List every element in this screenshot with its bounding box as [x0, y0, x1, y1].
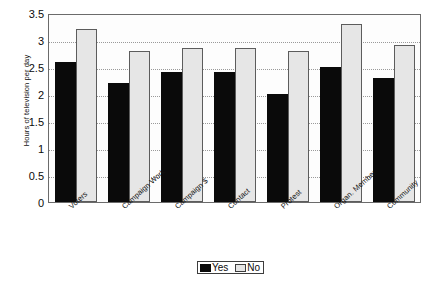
- chart-legend: YesNo: [197, 261, 264, 274]
- bar-no: [288, 51, 309, 202]
- y-tick-label: 2: [14, 90, 44, 101]
- bar-chart: Hours of television per day 3.532.521.51…: [0, 0, 431, 289]
- bar-no: [341, 24, 362, 202]
- bar-yes: [108, 83, 129, 202]
- y-tick-label: 2.5: [14, 63, 44, 74]
- legend-label: Yes: [212, 263, 228, 273]
- bar-group: [267, 15, 309, 202]
- legend-entry: No: [235, 263, 260, 273]
- bar-yes: [373, 78, 394, 202]
- y-tick-label: 1.5: [14, 117, 44, 128]
- bar-no: [235, 48, 256, 202]
- solid-black-swatch: [200, 264, 211, 272]
- legend-label: No: [247, 263, 260, 273]
- y-tick-label: 0: [14, 198, 44, 209]
- legend-entry: Yes: [200, 263, 228, 273]
- y-tick-label: 0.5: [14, 171, 44, 182]
- dotted-pattern-swatch: [235, 264, 246, 272]
- x-axis-category-labels: VotersCampaign WorkCampaign $ContactProt…: [48, 204, 421, 260]
- bar-group: [108, 15, 150, 202]
- y-axis-tick-labels: 3.532.521.510.50: [14, 0, 44, 289]
- bar-group: [373, 15, 415, 202]
- y-tick-label: 3: [14, 36, 44, 47]
- bar-yes: [55, 62, 76, 202]
- bar-no: [76, 29, 97, 202]
- bar-group: [55, 15, 97, 202]
- bar-yes: [320, 67, 341, 202]
- y-tick-label: 1: [14, 144, 44, 155]
- bar-yes: [161, 72, 182, 202]
- bar-yes: [267, 94, 288, 202]
- bar-group: [214, 15, 256, 202]
- y-tick-label: 3.5: [14, 9, 44, 20]
- bar-yes: [214, 72, 235, 202]
- bar-group: [320, 15, 362, 202]
